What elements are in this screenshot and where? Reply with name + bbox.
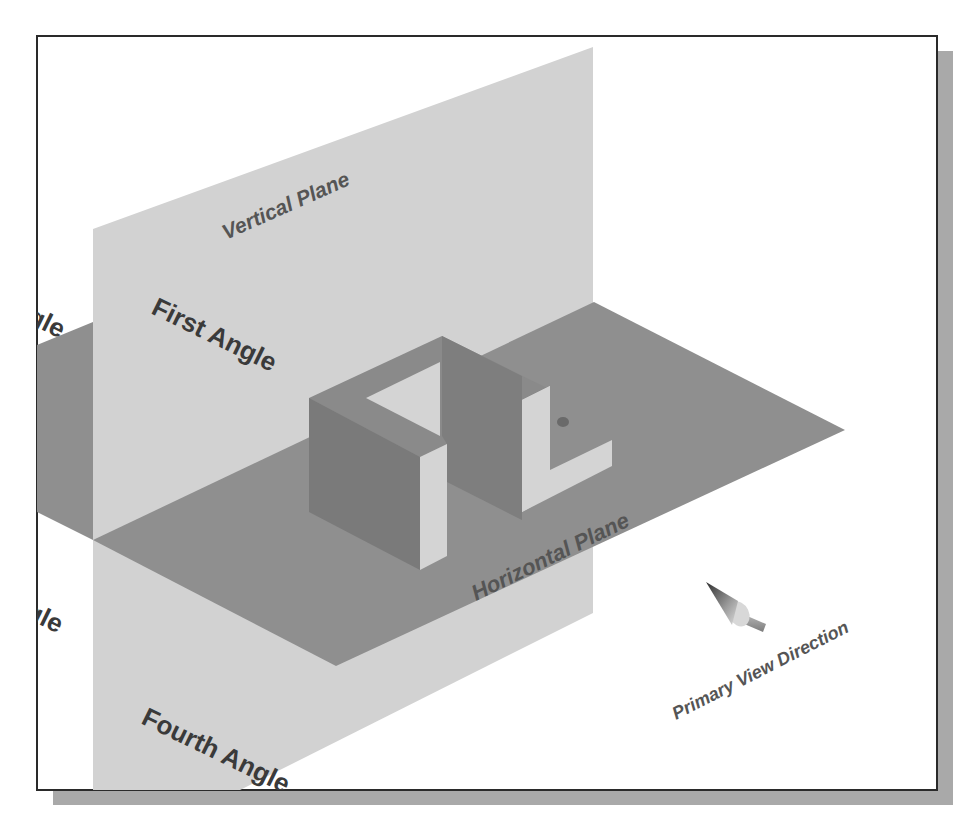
object-l-stem xyxy=(522,386,550,512)
horizontal-plane-rear xyxy=(37,322,93,540)
projection-diagram: Vertical Plane First Angle gle gle Fourt… xyxy=(0,0,978,828)
object-edge-face xyxy=(420,444,447,570)
object-hole xyxy=(557,417,569,427)
